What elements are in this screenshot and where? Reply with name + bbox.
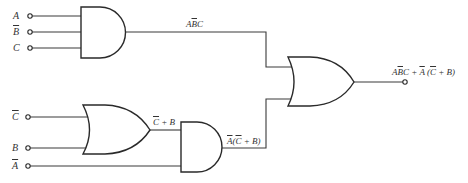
input-label-c: C <box>13 43 20 53</box>
wire-and1-out <box>123 32 292 67</box>
and2-output-label: A(C + B) <box>227 137 261 146</box>
terminal-output <box>403 80 407 84</box>
or1-output-label: C + B <box>153 118 175 127</box>
and-gate-1 <box>81 7 126 58</box>
and-gate-2 <box>181 122 222 172</box>
input-label-a: A <box>13 11 19 21</box>
terminal-c-bar <box>26 115 30 119</box>
terminal-a-bar <box>26 164 30 168</box>
input-label-c-bar: C <box>12 112 19 122</box>
or-gate-1 <box>83 105 150 154</box>
input-label-a-bar: A <box>12 161 18 171</box>
terminal-a <box>28 14 32 18</box>
final-output-label: ABC + A (C + B) <box>392 68 455 77</box>
or-gate-2 <box>288 57 354 106</box>
terminal-c <box>28 46 32 50</box>
logic-circuit <box>0 0 468 183</box>
terminal-b <box>26 146 30 150</box>
and1-output-label: ABC <box>186 20 203 29</box>
input-label-b: B <box>12 143 18 153</box>
terminal-b-bar <box>28 30 32 34</box>
input-label-b-bar: B <box>13 27 19 37</box>
